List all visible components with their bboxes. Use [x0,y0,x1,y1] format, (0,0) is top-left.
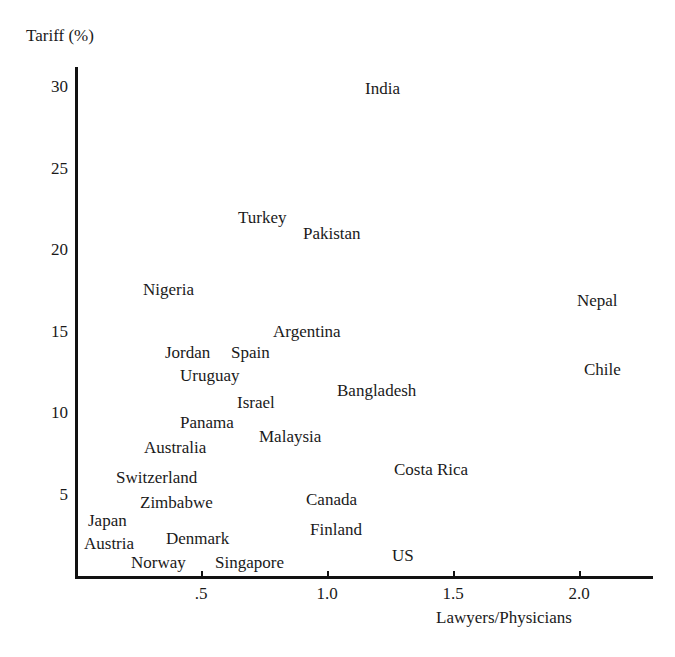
data-point-label: Nepal [577,292,618,309]
x-tick-label: 2.0 [549,584,609,604]
data-point-label: Bangladesh [337,382,416,399]
data-point-label: Pakistan [303,225,361,242]
y-tick-label: 20 [34,240,68,260]
y-tick-label: 10 [34,403,68,423]
data-point-label: Costa Rica [394,461,468,478]
x-axis-line [75,576,653,579]
data-point-label: Malaysia [259,428,321,445]
data-point-label: US [392,547,414,564]
data-point-label: Australia [144,439,206,456]
scatter-chart: Tariff (%) 51015202530 .51.01.52.0 India… [0,0,675,657]
x-tick-mark [579,571,581,576]
data-point-label: Norway [131,554,186,571]
data-point-label: Nigeria [143,281,194,298]
x-tick-mark [201,571,203,576]
data-point-label: Panama [180,414,234,431]
x-tick-mark [453,571,455,576]
y-axis-title: Tariff (%) [26,26,94,46]
data-point-label: Jordan [165,344,210,361]
data-point-label: Denmark [166,530,229,547]
data-point-label: Chile [584,361,621,378]
y-tick-label: 25 [34,159,68,179]
data-point-label: Finland [310,521,362,538]
y-tick-label: 15 [34,322,68,342]
data-point-label: Switzerland [116,469,197,486]
data-point-label: Singapore [215,554,284,571]
data-point-label: Israel [237,394,275,411]
y-tick-label: 30 [34,77,68,97]
data-point-label: Spain [231,344,270,361]
data-point-label: Canada [306,491,357,508]
data-point-label: Argentina [273,323,341,340]
x-tick-label: .5 [171,584,231,604]
y-axis-line [75,67,78,579]
y-tick-label: 5 [34,485,68,505]
data-point-label: Japan [88,512,127,529]
x-axis-title: Lawyers/Physicians [436,608,572,628]
data-point-label: Austria [84,535,134,552]
data-point-label: India [365,80,400,97]
data-point-label: Zimbabwe [140,494,213,511]
x-tick-label: 1.0 [297,584,357,604]
data-point-label: Uruguay [180,367,239,384]
data-point-label: Turkey [238,209,287,226]
x-tick-label: 1.5 [423,584,483,604]
x-tick-mark [327,571,329,576]
